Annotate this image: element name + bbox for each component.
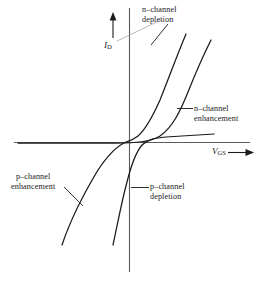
label-p-channel-enhancement-line2: enhancement	[11, 182, 55, 192]
label-n-channel-depletion-line2: depletion	[142, 15, 177, 25]
axis-label-gate-source-voltage: VGS	[212, 146, 226, 156]
diagram-canvas	[0, 0, 265, 282]
leader-line-n-channel-depletion	[151, 24, 168, 45]
label-p-channel-depletion-line2: depletion	[150, 192, 185, 202]
label-p-channel-depletion-line1: p–channel	[150, 182, 185, 192]
label-p-channel-enhancement-line1: p–channel	[11, 172, 55, 182]
label-n-channel-enhancement-line2: enhancement	[194, 114, 238, 124]
drain-current-arrow-icon	[110, 12, 117, 38]
label-p-channel-enhancement: p–channel enhancement	[11, 172, 55, 191]
label-n-channel-enhancement-line1: n–channel	[194, 104, 238, 114]
label-n-channel-enhancement: n–channel enhancement	[194, 104, 238, 123]
axis-label-drain-current-subscript: D	[107, 43, 112, 50]
mosfet-transfer-characteristics-figure: n–channel depletion n–channel enhancemen…	[0, 0, 265, 282]
curve-n-channel-enhancement	[18, 40, 211, 143]
label-p-channel-depletion: p–channel depletion	[150, 182, 185, 201]
label-n-channel-depletion-line1: n–channel	[142, 5, 177, 15]
axis-label-gate-source-voltage-subscript: GS	[218, 149, 227, 156]
curve-n-channel-depletion	[62, 34, 186, 245]
gate-source-voltage-arrow-icon	[228, 149, 254, 156]
label-n-channel-depletion: n–channel depletion	[142, 5, 177, 24]
leader-line-p-channel-enhancement	[64, 187, 83, 206]
axis-label-drain-current: ID	[104, 40, 112, 50]
